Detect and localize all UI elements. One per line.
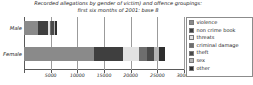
legend-swatch-icon <box>189 58 194 63</box>
bar-female <box>24 47 165 61</box>
y-axis-label-female: Female <box>0 51 22 57</box>
legend-swatch-icon <box>189 35 194 40</box>
legend-label: other <box>197 65 210 73</box>
legend-item[interactable]: other <box>188 65 252 73</box>
x-tick-label: 5000 <box>38 73 64 78</box>
bar-male <box>24 21 57 35</box>
legend-swatch-icon <box>189 51 194 56</box>
gridline <box>157 17 158 70</box>
legend-swatch-icon <box>189 20 194 25</box>
legend-label: criminal damage <box>197 42 239 50</box>
legend-label: theft <box>197 49 209 57</box>
gridline <box>77 17 78 70</box>
legend-item[interactable]: violence <box>188 19 252 27</box>
bar-segment <box>38 21 48 35</box>
y-axis-labels: Male Female <box>0 17 22 70</box>
bar-segment <box>94 47 123 61</box>
bar-chart: Recorded allegations by gender of victim… <box>0 0 253 85</box>
y-axis-label-male: Male <box>0 25 22 31</box>
x-tick-label: 10000 <box>64 73 90 78</box>
bar-segment <box>159 47 165 61</box>
legend-item[interactable]: non crime book <box>188 27 252 35</box>
gridline <box>131 17 132 70</box>
bar-segment <box>123 47 139 61</box>
x-tick-label: 15000 <box>91 73 117 78</box>
legend-swatch-icon <box>189 43 194 48</box>
legend-item[interactable]: sex <box>188 57 252 65</box>
legend-label: violence <box>197 19 218 27</box>
bar-segment <box>24 47 94 61</box>
bar-segment <box>139 47 147 61</box>
gridline <box>104 17 105 70</box>
legend-item[interactable]: theft <box>188 49 252 57</box>
legend-swatch-icon <box>189 66 194 71</box>
legend-swatch-icon <box>189 28 194 33</box>
plot-area <box>24 17 184 70</box>
x-tick-label: 25000 <box>144 73 170 78</box>
bar-segment <box>24 21 38 35</box>
gridline <box>184 17 185 70</box>
bar-segment <box>55 21 57 35</box>
x-tick-label: 20000 <box>118 73 144 78</box>
chart-legend: violencenon crime bookthreatscriminal da… <box>186 17 253 77</box>
legend-label: sex <box>197 57 206 65</box>
legend-item[interactable]: criminal damage <box>188 42 252 50</box>
legend-item[interactable]: threats <box>188 34 252 42</box>
legend-label: threats <box>197 34 215 42</box>
chart-title-line-2: first six months of 2001: base 8 <box>18 7 218 14</box>
bar-segment <box>147 47 154 61</box>
chart-title: Recorded allegations by gender of victim… <box>18 0 218 14</box>
chart-title-line-1: Recorded allegations by gender of victim… <box>18 0 218 7</box>
legend-label: non crime book <box>197 27 236 35</box>
